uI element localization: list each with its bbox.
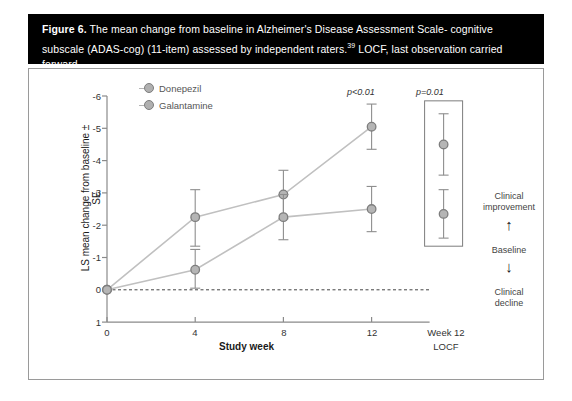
figure-caption-banner: Figure 6. The mean change from baseline … (28, 14, 544, 64)
chart-panel: LS mean change from baseline ± SE Study … (28, 68, 544, 380)
axes-group (102, 96, 430, 322)
figure-container: Figure 6. The mean change from baseline … (0, 0, 572, 401)
series-group (103, 104, 377, 294)
figure-caption-text: Figure 6. The mean change from baseline … (42, 22, 530, 72)
plot-area (29, 69, 545, 381)
figure-number: Figure 6. (42, 23, 87, 35)
locf-box-group (425, 101, 463, 246)
